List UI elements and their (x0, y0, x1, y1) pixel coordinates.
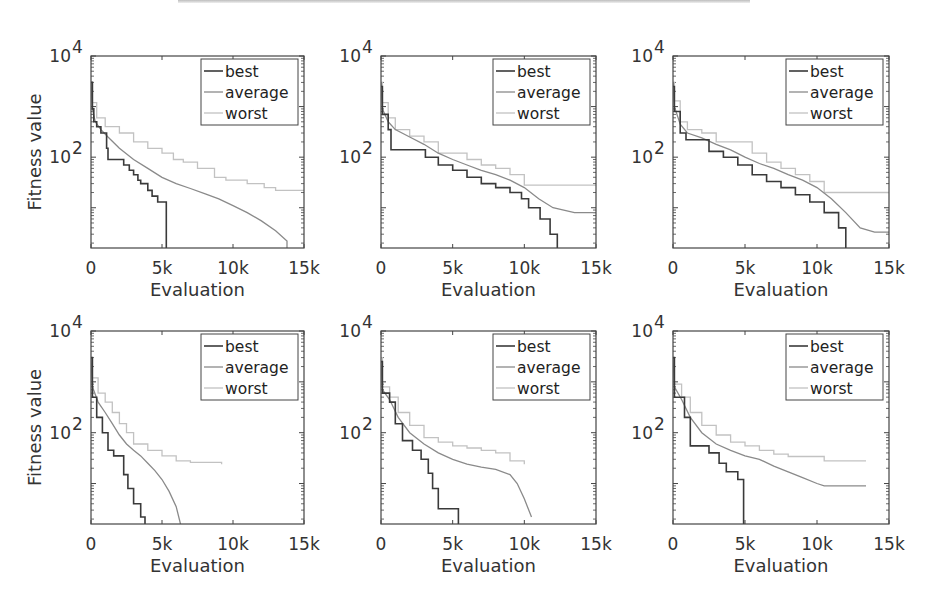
y-tick-exponent: 2 (72, 414, 83, 434)
figure-canvas: bestaverageworst05k10k15k102104Evaluatio… (0, 0, 934, 606)
x-tick-label: 10k (509, 258, 541, 278)
legend-label-best: best (810, 338, 844, 356)
y-tick-exponent: 4 (72, 37, 83, 57)
y-tick-exponent: 2 (654, 414, 665, 434)
legend-label-average: average (225, 84, 288, 102)
subplot-bottom-left: bestaverageworst05k10k15k102104Evaluatio… (24, 312, 320, 576)
legend-label-average: average (517, 84, 580, 102)
y-tick-exponent: 4 (72, 312, 83, 332)
x-tick-label: 10k (217, 534, 249, 554)
legend-label-average: average (810, 84, 873, 102)
y-tick-label: 10 (49, 147, 71, 167)
legend-label-average: average (810, 359, 873, 377)
y-tick-label: 10 (49, 423, 71, 443)
y-tick-exponent: 4 (362, 37, 373, 57)
x-tick-label: 10k (217, 258, 249, 278)
x-tick-label: 0 (376, 534, 387, 554)
x-tick-label: 5k (152, 258, 173, 278)
x-tick-label: 0 (86, 534, 97, 554)
legend-label-worst: worst (225, 105, 268, 123)
legend-label-worst: worst (517, 105, 560, 123)
x-tick-label: 5k (735, 258, 756, 278)
y-tick-exponent: 2 (654, 138, 665, 158)
legend: bestaverageworst (786, 59, 883, 125)
y-tick-exponent: 2 (362, 414, 373, 434)
legend: bestaverageworst (201, 59, 298, 125)
legend: bestaverageworst (786, 334, 883, 400)
legend-label-best: best (517, 338, 551, 356)
y-tick-label: 10 (339, 423, 361, 443)
y-axis-label: Fitness value (24, 93, 45, 210)
legend-label-worst: worst (517, 380, 560, 398)
y-tick-label: 10 (631, 46, 653, 66)
series-line-best (673, 358, 744, 524)
y-tick-exponent: 4 (654, 312, 665, 332)
series-line-best (91, 358, 145, 524)
legend-label-best: best (810, 63, 844, 81)
x-tick-label: 0 (376, 258, 387, 278)
subplot-top-right: bestaverageworst05k10k15k102104Evaluatio… (631, 37, 905, 300)
legend-label-best: best (225, 63, 259, 81)
legend-label-average: average (225, 359, 288, 377)
y-tick-exponent: 2 (362, 138, 373, 158)
x-axis-label: Evaluation (150, 555, 245, 576)
x-axis-label: Evaluation (150, 279, 245, 300)
y-tick-label: 10 (339, 147, 361, 167)
legend: bestaverageworst (493, 334, 590, 400)
y-tick-exponent: 4 (654, 37, 665, 57)
x-tick-label: 15k (580, 258, 612, 278)
x-tick-label: 0 (668, 534, 679, 554)
y-axis-label: Fitness value (24, 369, 45, 486)
x-tick-label: 10k (801, 258, 833, 278)
x-axis-label: Evaluation (734, 279, 829, 300)
x-tick-label: 15k (873, 534, 905, 554)
x-tick-label: 10k (801, 534, 833, 554)
y-tick-label: 10 (339, 46, 361, 66)
series-line-average (91, 358, 181, 524)
x-tick-label: 15k (288, 258, 320, 278)
x-axis-label: Evaluation (734, 555, 829, 576)
legend-label-worst: worst (810, 105, 853, 123)
x-tick-label: 5k (735, 534, 756, 554)
x-tick-label: 15k (873, 258, 905, 278)
y-tick-label: 10 (49, 321, 71, 341)
y-tick-label: 10 (49, 46, 71, 66)
subplot-bottom-right: bestaverageworst05k10k15k102104Evaluatio… (631, 312, 905, 576)
x-tick-label: 15k (580, 534, 612, 554)
x-tick-label: 15k (288, 534, 320, 554)
x-tick-label: 5k (152, 534, 173, 554)
y-tick-label: 10 (631, 321, 653, 341)
legend-label-worst: worst (810, 380, 853, 398)
y-tick-label: 10 (631, 423, 653, 443)
x-tick-label: 0 (86, 258, 97, 278)
y-tick-exponent: 2 (72, 138, 83, 158)
legend-label-best: best (225, 338, 259, 356)
subplot-top-left: bestaverageworst05k10k15k102104Evaluatio… (24, 37, 320, 300)
x-tick-label: 5k (442, 258, 463, 278)
y-tick-label: 10 (339, 321, 361, 341)
y-tick-label: 10 (631, 147, 653, 167)
y-tick-exponent: 4 (362, 312, 373, 332)
legend: bestaverageworst (201, 334, 298, 400)
x-tick-label: 10k (509, 534, 541, 554)
legend-label-best: best (517, 63, 551, 81)
subplot-top-middle: bestaverageworst05k10k15k102104Evaluatio… (339, 37, 612, 300)
x-tick-label: 0 (668, 258, 679, 278)
x-tick-label: 5k (442, 534, 463, 554)
legend-label-average: average (517, 359, 580, 377)
x-axis-label: Evaluation (441, 279, 536, 300)
series-line-best (91, 82, 166, 248)
subplot-bottom-middle: bestaverageworst05k10k15k102104Evaluatio… (339, 312, 612, 576)
x-axis-label: Evaluation (441, 555, 536, 576)
legend-label-worst: worst (225, 380, 268, 398)
legend: bestaverageworst (493, 59, 590, 125)
